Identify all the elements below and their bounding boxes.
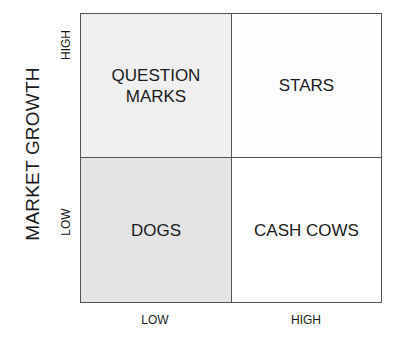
quadrant-label: QUESTION MARKS — [112, 65, 201, 107]
quadrant-label: DOGS — [131, 220, 181, 241]
y-tick-high: HIGH — [59, 30, 73, 60]
quadrant-label: CASH COWS — [254, 220, 359, 241]
y-tick-low: LOW — [59, 208, 73, 235]
bcg-matrix: QUESTION MARKS STARS DOGS CASH COWS — [80, 13, 382, 303]
quadrant-dogs: DOGS — [81, 158, 232, 302]
quadrant-stars: STARS — [232, 14, 381, 158]
x-tick-high: HIGH — [291, 313, 321, 327]
quadrant-question-marks: QUESTION MARKS — [81, 14, 232, 158]
quadrant-label: STARS — [279, 75, 334, 96]
y-axis-label: MARKET GROWTH — [22, 67, 44, 240]
quadrant-cash-cows: CASH COWS — [232, 158, 381, 302]
x-tick-low: LOW — [141, 313, 168, 327]
